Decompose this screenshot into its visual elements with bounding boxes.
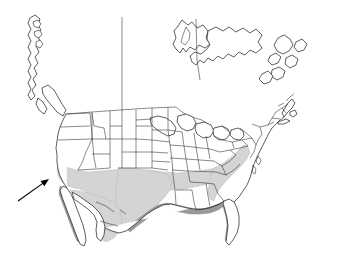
map-canvas bbox=[0, 0, 341, 261]
range-shading-group bbox=[57, 145, 250, 243]
locality-arrow bbox=[18, 179, 49, 201]
range-area-texas bbox=[116, 168, 172, 231]
great-lakes bbox=[150, 116, 176, 136]
range-map-figure bbox=[0, 0, 341, 261]
